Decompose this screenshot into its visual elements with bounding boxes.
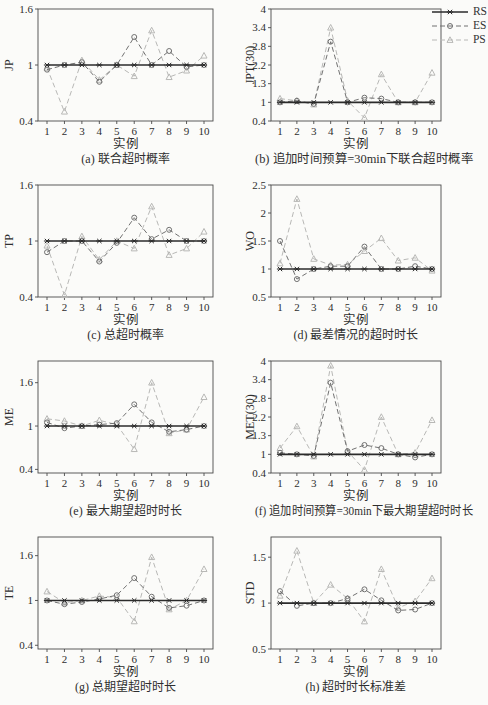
subplot-a-plot: 0.411.612345678910JP实例(a) 联合超时概率 [0,0,244,176]
x-tick-label: 7 [149,301,155,313]
x-tick-label: 5 [114,301,120,313]
x-tick-label: 2 [62,301,68,313]
ps-line-marker-icon [429,34,473,46]
y-tick-label: 1.6 [19,549,33,561]
legend-label-rs: RS [473,5,487,18]
x-tick-label: 10 [199,125,211,137]
y-tick-label: 0.4 [19,115,33,127]
series-RS-marker [311,267,317,271]
x-tick-label: 6 [362,301,368,313]
x-tick-label: 9 [184,653,190,665]
x-tick-label: 10 [427,125,439,137]
y-tick-label: 1 [261,263,267,275]
series-ES-marker [167,49,172,54]
series-RS-marker [395,452,401,456]
series-PS-marker [378,235,384,241]
x-tick-label: 6 [362,125,368,137]
series-PS-marker [429,575,435,581]
y-tick-label: 0.4 [252,467,266,479]
x-tick-label: 10 [427,477,439,489]
x-tick-label: 8 [395,477,401,489]
series-PS-line [47,557,204,621]
x-tick-label: 8 [166,125,172,137]
y-tick-label: 2 [261,207,267,219]
series-RS-marker [429,100,435,104]
x-tick-label: 5 [345,653,351,665]
y-tick-label: 4 [261,355,267,367]
x-tick-label: 1 [44,477,50,489]
series-RS-marker [201,598,207,602]
x-tick-label: 9 [412,125,418,137]
series-RS-marker [344,452,350,456]
x-tick-label: 2 [294,653,300,665]
x-tick-label: 1 [277,653,283,665]
subplot-c: 0.411.612345678910TP实例(c) 总超时概率 [0,176,244,352]
plot-box [38,537,213,649]
series-RS-marker [412,601,418,605]
x-tick-label: 1 [44,125,50,137]
series-ES-line [47,218,204,262]
series-RS-marker [361,100,367,104]
series-ES-marker [132,576,137,581]
x-tick-label: 9 [412,477,418,489]
x-tick-label: 5 [345,301,351,313]
subplot-caption: (g) 总期望超时时长 [75,679,176,694]
plot-box [271,361,441,473]
subplot-f-plot: 0.411.32.22.83.4412345678910MET(30)实例(f)… [244,352,488,528]
series-RS-marker [61,239,67,243]
x-tick-label: 8 [166,301,172,313]
subplot-g-plot: 0.411.612345678910TE实例(g) 总期望超时时长 [0,528,244,704]
x-tick-label: 5 [114,477,120,489]
series-RS-marker [44,598,50,602]
x-tick-label: 3 [311,301,317,313]
x-axis-label: 实例 [343,312,369,327]
series-ES-line [47,578,204,608]
series-RS-marker [114,598,120,602]
y-axis-label: TE [2,586,16,601]
x-tick-label: 6 [131,653,137,665]
series-ES-line [280,589,432,610]
series-RS-marker [378,267,384,271]
x-tick-label: 6 [362,477,368,489]
series-RS-marker [395,267,401,271]
series-RS-marker [131,424,137,428]
x-tick-label: 6 [131,477,137,489]
series-RS-marker [361,452,367,456]
legend-label-es: ES [473,19,486,32]
x-tick-label: 10 [199,301,211,313]
x-tick-label: 1 [277,301,283,313]
series-RS-marker [277,267,283,271]
x-axis-label: 实例 [113,312,139,327]
series-ES-marker [132,35,137,40]
series-PS-line [47,207,204,296]
series-PS-marker [429,417,435,423]
x-tick-label: 3 [79,301,85,313]
series-RS-marker [114,63,120,67]
y-tick-label: 0.4 [19,291,33,303]
series-RS-marker [378,452,384,456]
legend-item-rs: RS [429,5,487,18]
series-RS-marker [79,424,85,428]
series-RS-marker [429,601,435,605]
series-RS-marker [277,601,283,605]
series-RS-marker [131,239,137,243]
series-RS-marker [183,598,189,602]
series-RS-marker [201,239,207,243]
legend-RS-marker [447,9,453,13]
subplot-a: 0.411.612345678910JP实例(a) 联合超时概率 [0,0,244,176]
series-PS-marker [201,394,207,400]
x-tick-label: 4 [97,653,103,665]
x-tick-label: 10 [199,477,211,489]
subplot-h-plot: 0.511.512345678910STD实例(h) 超时时长标准差 [244,528,488,704]
series-RS-marker [412,100,418,104]
subplot-e: 0.411.612345678910ME实例(e) 最大期望超时时长 [0,352,244,528]
series-RS-marker [344,267,350,271]
legend-item-ps: PS [429,33,487,46]
y-tick-label: 0.4 [252,115,266,127]
series-RS-marker [412,267,418,271]
x-axis-label: 实例 [113,664,139,679]
x-axis-label: 实例 [113,488,139,503]
series-RS-marker [361,601,367,605]
series-RS-marker [361,267,367,271]
subplot-caption: (c) 总超时概率 [87,327,163,342]
